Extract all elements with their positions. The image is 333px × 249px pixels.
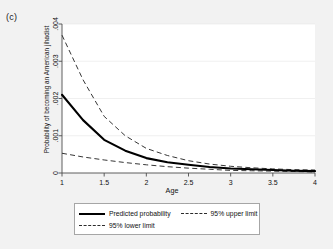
y-tick-label: .002 bbox=[52, 92, 59, 106]
line-chart: 0.001.002.003.004 11.522.533.54 bbox=[22, 10, 322, 198]
legend-label-95-lower-limit: 95% lower limit bbox=[109, 222, 155, 229]
y-tick-label: .004 bbox=[52, 17, 59, 31]
legend-entry-predicted-probability: Predicted probability bbox=[79, 210, 171, 217]
legend-entry-95-upper-limit: 95% upper limit bbox=[181, 210, 258, 217]
x-tick-label: 3.5 bbox=[268, 179, 278, 186]
x-tick-label: 3 bbox=[229, 179, 233, 186]
x-axis-ticks: 11.522.533.54 bbox=[60, 173, 317, 186]
x-tick-label: 2 bbox=[144, 179, 148, 186]
x-tick-label: 1 bbox=[60, 179, 64, 186]
legend-swatch-dashed-lower-icon bbox=[79, 222, 105, 229]
y-tick-label: .001 bbox=[52, 129, 59, 143]
plot-area: Probability of becoming an American jiha… bbox=[22, 10, 322, 198]
legend-entry-95-lower-limit: 95% lower limit bbox=[79, 222, 155, 229]
legend-label-predicted-probability: Predicted probability bbox=[109, 210, 171, 217]
chart-legend: Predicted probability 95% upper limit 95… bbox=[74, 203, 260, 235]
legend-row-2: 95% lower limit bbox=[79, 219, 254, 231]
y-tick-label: 0 bbox=[52, 171, 59, 175]
y-tick-label: .003 bbox=[52, 54, 59, 68]
y-axis-ticks: 0.001.002.003.004 bbox=[52, 17, 62, 175]
legend-label-95-upper-limit: 95% upper limit bbox=[211, 210, 258, 217]
panel-label: (c) bbox=[6, 12, 17, 22]
legend-swatch-dashed-upper-icon bbox=[181, 210, 207, 217]
x-tick-label: 4 bbox=[313, 179, 317, 186]
x-tick-label: 2.5 bbox=[184, 179, 194, 186]
x-tick-label: 1.5 bbox=[99, 179, 109, 186]
legend-row-1: Predicted probability 95% upper limit bbox=[79, 207, 254, 219]
legend-swatch-solid-icon bbox=[79, 210, 105, 217]
figure-panel-c: (c) Probability of becoming an American … bbox=[0, 0, 333, 249]
